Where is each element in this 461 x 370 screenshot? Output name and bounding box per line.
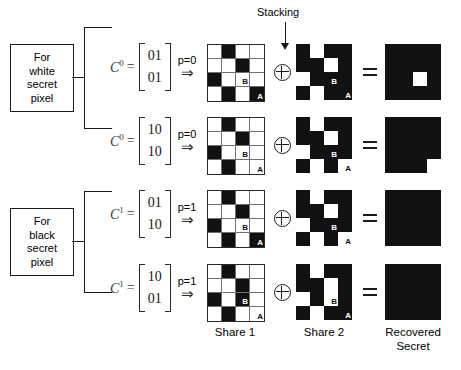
grid-cell xyxy=(338,190,352,204)
matrix-values-row-4: 10 01 xyxy=(145,265,165,311)
grid-cell xyxy=(324,264,338,278)
grid-cell xyxy=(250,59,264,73)
grid-cell xyxy=(250,73,264,87)
secret-cell xyxy=(385,278,399,292)
grid-cell xyxy=(208,146,222,160)
secret-cell xyxy=(427,159,441,173)
brace-arm-white-top xyxy=(84,27,112,28)
grid-cell xyxy=(222,146,236,160)
grid-cell xyxy=(250,45,264,59)
grid-cell xyxy=(250,191,264,205)
secret-cell xyxy=(427,218,441,232)
matrix-row1-row-3: 01 xyxy=(148,192,162,214)
secret-cell xyxy=(399,278,413,292)
bracket-right-row-1 xyxy=(165,43,171,91)
brace-spine-black xyxy=(84,191,85,292)
grid-cell xyxy=(208,265,222,279)
assign-sign-row-3: = xyxy=(127,206,135,222)
grid-cell xyxy=(236,87,250,101)
secret-cell xyxy=(413,218,427,232)
grid-cell xyxy=(208,219,222,233)
implies-group-row-2: p=0 ⇒ xyxy=(178,129,197,154)
secret-cell xyxy=(399,72,413,86)
cell-mark-b: B xyxy=(242,77,248,86)
cell-mark-a: A xyxy=(345,164,351,173)
secret-cell xyxy=(399,159,413,173)
grid-cell xyxy=(296,306,310,320)
grid-cell xyxy=(236,118,250,132)
grid-cell xyxy=(310,44,324,58)
secret-cell xyxy=(385,145,399,159)
grid-cell xyxy=(324,159,338,173)
secret-cell xyxy=(399,264,413,278)
grid-cell xyxy=(236,265,250,279)
secret-cell xyxy=(385,218,399,232)
grid-cell xyxy=(338,145,352,159)
grid-cell xyxy=(338,131,352,145)
grid-cell xyxy=(250,219,264,233)
grid-cell xyxy=(324,306,338,320)
brace-arm-white-bottom xyxy=(84,128,112,129)
cell-mark-b: B xyxy=(242,223,248,232)
grid-cell xyxy=(324,117,338,131)
matrix-bracket-row-1: 01 01 xyxy=(139,43,171,91)
matrix-row1-row-4: 10 xyxy=(148,266,162,288)
grid-cell xyxy=(208,132,222,146)
grid-cell xyxy=(324,86,338,100)
share2-grid-row-2: BA xyxy=(296,117,352,173)
cell-mark-a: A xyxy=(257,165,263,174)
cell-mark-a: A xyxy=(345,311,351,320)
secret-cell xyxy=(427,58,441,72)
implies-group-row-3: p=1 ⇒ xyxy=(178,202,197,227)
grid-cell xyxy=(222,219,236,233)
grid-cell xyxy=(296,159,310,173)
assign-sign-row-1: = xyxy=(127,59,135,75)
grid-cell xyxy=(310,159,324,173)
cell-mark-a: A xyxy=(257,238,263,247)
secret-cell xyxy=(427,117,441,131)
secret-cell xyxy=(413,58,427,72)
grid-cell xyxy=(222,118,236,132)
secret-cell xyxy=(413,72,427,86)
grid-cell xyxy=(310,86,324,100)
grid-cell xyxy=(296,264,310,278)
grid-cell xyxy=(338,117,352,131)
group-box-black-secret-pixel: For black secret pixel xyxy=(10,208,74,276)
secret-cell xyxy=(399,117,413,131)
secret-cell xyxy=(399,145,413,159)
group-black-line2: black xyxy=(27,229,57,243)
figure-canvas: For white secret pixel For black secret … xyxy=(0,0,461,370)
share2-grid-row-3: BA xyxy=(296,190,352,246)
group-white-line1: For xyxy=(27,51,57,65)
secret-cell xyxy=(427,131,441,145)
secret-cell xyxy=(413,86,427,100)
secret-cell xyxy=(399,131,413,145)
matrix-row1-row-1: 01 xyxy=(148,45,162,67)
grid-cell xyxy=(208,191,222,205)
secret-cell xyxy=(413,278,427,292)
grid-cell xyxy=(250,132,264,146)
caption-share2: Share 2 xyxy=(291,325,357,339)
cell-mark-b: B xyxy=(242,150,248,159)
secret-cell xyxy=(413,145,427,159)
grid-cell xyxy=(208,233,222,247)
grid-cell xyxy=(338,278,352,292)
recovered-secret-row-4 xyxy=(385,264,441,320)
assign-sign-row-4: = xyxy=(127,280,135,296)
brace-arm-black-top xyxy=(84,191,112,192)
secret-cell xyxy=(399,292,413,306)
grid-cell xyxy=(222,73,236,87)
grid-cell xyxy=(324,44,338,58)
grid-cell xyxy=(338,264,352,278)
grid-cell xyxy=(310,292,324,306)
xor-icon-row-3 xyxy=(274,210,291,227)
grid-cell xyxy=(208,160,222,174)
xor-icon-row-4 xyxy=(274,284,291,301)
equals-icon-row-4 xyxy=(363,288,377,296)
stacking-arrow-shaft xyxy=(285,22,286,44)
grid-cell xyxy=(296,204,310,218)
group-white-line3: secret xyxy=(27,78,57,92)
share2-grid-row-4: BA xyxy=(296,264,352,320)
grid-cell xyxy=(222,59,236,73)
secret-cell xyxy=(385,72,399,86)
